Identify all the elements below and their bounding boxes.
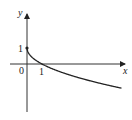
x-axis-label: x — [122, 65, 128, 76]
y-axis-label: y — [17, 7, 23, 18]
x-tick-label: 1 — [39, 66, 44, 77]
start-point — [25, 46, 28, 49]
y-tick-label: 1 — [18, 43, 23, 54]
function-graph: y x 0 1 1 — [0, 0, 132, 120]
origin-label: 0 — [19, 65, 24, 76]
